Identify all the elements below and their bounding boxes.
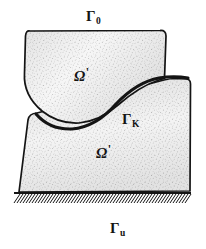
figure-drawing bbox=[0, 0, 206, 249]
gamma-u-subscript: u bbox=[120, 228, 125, 238]
omega-upper-prime: ' bbox=[86, 65, 89, 79]
contact-mechanics-figure: Γ0 Ω' ΓK Ω' Γu bbox=[0, 0, 206, 249]
gamma-k-label: ΓK bbox=[122, 111, 139, 130]
gamma-u-base: Γ bbox=[110, 220, 120, 236]
omega-lower-prime: ' bbox=[108, 142, 111, 156]
omega-lower-label: Ω' bbox=[96, 143, 111, 161]
gamma-k-subscript: K bbox=[132, 119, 139, 129]
gamma-u-label: Γu bbox=[110, 220, 125, 239]
gamma-zero-subscript: 0 bbox=[96, 16, 101, 26]
gamma-k-base: Γ bbox=[122, 111, 132, 127]
omega-lower-base: Ω bbox=[96, 145, 107, 161]
omega-upper-label: Ω' bbox=[74, 66, 89, 84]
omega-upper-base: Ω bbox=[74, 68, 85, 84]
ground-hatching bbox=[14, 194, 191, 203]
gamma-zero-label: Γ0 bbox=[86, 8, 101, 27]
gamma-zero-base: Γ bbox=[86, 8, 96, 24]
ground-support-group bbox=[14, 193, 191, 203]
